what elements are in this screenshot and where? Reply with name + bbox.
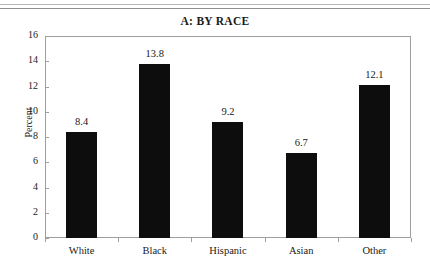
y-axis-tick-label: 16 [28,29,38,40]
y-axis-tick-label: 4 [33,181,38,192]
bar-black[interactable] [139,64,170,238]
y-axis-label: Percent [23,88,34,158]
x-axis-category-label: White [45,245,118,256]
figure-top-rules [0,0,430,12]
bar-group: 6.7 [265,36,338,238]
bar-value-label: 12.1 [338,69,411,80]
bar-asian[interactable] [286,153,317,238]
x-axis-tick-mark [411,238,412,242]
x-axis-category-label: Other [338,245,411,256]
x-axis-category-label: Asian [265,245,338,256]
x-axis-category-label: Black [118,245,191,256]
x-axis-tick-mark [45,238,46,242]
y-axis-tick-label: 10 [28,105,38,116]
rule-lower [0,8,430,9]
y-axis-tick-label: 12 [28,80,38,91]
bar-value-label: 8.4 [45,116,118,127]
bar-white[interactable] [66,132,97,238]
y-axis-tick-label: 14 [28,54,38,65]
bar-group: 13.8 [118,36,191,238]
bar-value-label: 13.8 [118,48,191,59]
x-axis-tick-mark [191,238,192,242]
x-axis-tick-mark [265,238,266,242]
bar-value-label: 9.2 [191,106,264,117]
y-axis-tick-label: 0 [33,231,38,242]
bar-group: 9.2 [191,36,264,238]
chart-title: A: BY RACE [0,15,430,27]
bar-hispanic[interactable] [212,122,243,238]
x-axis-category-label: Hispanic [191,245,264,256]
x-axis-tick-mark [338,238,339,242]
bar-group: 8.4 [45,36,118,238]
y-axis-tick-label: 2 [33,206,38,217]
x-axis-tick-mark [118,238,119,242]
rule-upper [0,4,430,5]
bar-value-label: 6.7 [265,137,338,148]
y-axis-tick-label: 8 [33,130,38,141]
bar-other[interactable] [359,85,390,238]
bar-group: 12.1 [338,36,411,238]
y-axis-tick-label: 6 [33,155,38,166]
